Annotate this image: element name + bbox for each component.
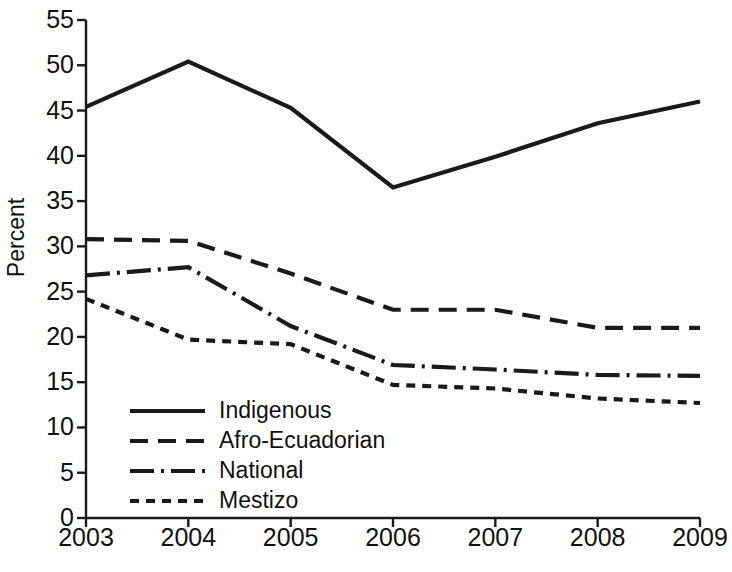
x-tick-label: 2003 (41, 525, 131, 550)
legend-label-indigenous: Indigenous (219, 399, 332, 422)
series-line-mestizo (86, 299, 700, 403)
x-tick-label: 2008 (553, 525, 643, 550)
x-tick-label: 2007 (450, 525, 540, 550)
legend-sample-lines (130, 411, 205, 501)
y-tick-label: 35 (28, 188, 74, 213)
series-line-national (86, 267, 700, 376)
y-tick-label: 5 (28, 460, 74, 485)
series-line-indigenous (86, 62, 700, 188)
legend-label-afro-ecuadorian: Afro-Ecuadorian (219, 429, 385, 452)
y-axis-tick-labels: 0510152025303540455055 (24, 0, 74, 572)
legend-label-national: National (219, 459, 303, 482)
x-tick-label: 2006 (348, 525, 438, 550)
y-tick-label: 10 (28, 414, 74, 439)
y-tick-label: 45 (28, 98, 74, 123)
y-tick-label: 55 (28, 7, 74, 32)
legend-label-mestizo: Mestizo (219, 489, 298, 512)
y-tick-label: 15 (28, 369, 74, 394)
x-tick-label: 2005 (246, 525, 336, 550)
axes (77, 20, 700, 527)
y-tick-label: 30 (28, 233, 74, 258)
y-tick-label: 20 (28, 324, 74, 349)
x-tick-label: 2004 (143, 525, 233, 550)
data-series (86, 62, 700, 403)
y-tick-label: 25 (28, 279, 74, 304)
y-tick-label: 50 (28, 52, 74, 77)
x-tick-label: 2009 (655, 525, 732, 550)
y-tick-label: 40 (28, 143, 74, 168)
series-line-afro-ecuadorian (86, 239, 700, 328)
